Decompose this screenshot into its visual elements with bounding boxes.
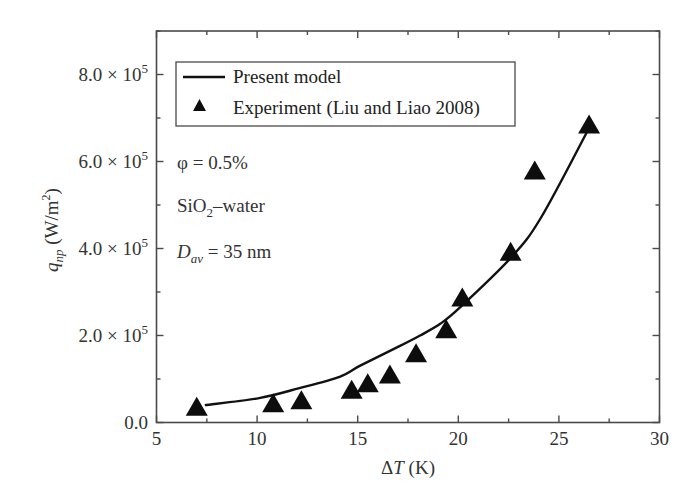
x-tick-label: 25: [549, 428, 568, 449]
x-axis-title: ΔT (K): [381, 457, 435, 479]
annotation-fluid: SiO2–water: [177, 195, 265, 220]
y-axis-title: qnp (W/m2): [39, 188, 66, 272]
triangle-marker-icon: [379, 365, 401, 384]
x-tick-label: 30: [650, 428, 669, 449]
triangle-marker-icon: [500, 242, 522, 261]
y-tick-labels: 0.02.0 × 1054.0 × 1056.0 × 1058.0 × 105: [79, 61, 148, 433]
x-tick-label: 10: [248, 428, 267, 449]
triangle-marker-icon: [357, 373, 379, 392]
x-tick-label: 20: [449, 428, 468, 449]
y-tick-label: 6.0 × 105: [79, 148, 148, 172]
x-tick-label: 15: [348, 428, 367, 449]
y-tick-label: 4.0 × 105: [79, 235, 148, 259]
y-tick-label: 2.0 × 105: [79, 322, 148, 346]
legend-marker-label: Experiment (Liu and Liao 2008): [233, 97, 480, 119]
chart: 51015202530 0.02.0 × 1054.0 × 1056.0 × 1…: [0, 0, 700, 504]
triangle-marker-icon: [524, 161, 546, 180]
triangle-marker-icon: [435, 319, 457, 338]
legend-line-label: Present model: [233, 66, 341, 87]
y-tick-label: 8.0 × 105: [79, 61, 148, 85]
triangle-marker-icon: [578, 114, 600, 133]
triangle-marker-icon: [186, 397, 208, 416]
y-tick-label: 0.0: [124, 412, 148, 433]
x-tick-label: 5: [152, 428, 162, 449]
legend: Present model Experiment (Liu and Liao 2…: [176, 62, 515, 126]
triangle-marker-icon: [290, 390, 312, 409]
annotation-phi: φ = 0.5%: [177, 152, 248, 173]
annotation-diameter: Dav = 35 nm: [176, 241, 271, 266]
triangle-marker-icon: [405, 343, 427, 362]
x-tick-labels: 51015202530: [152, 428, 669, 449]
experiment-markers: [186, 114, 600, 415]
